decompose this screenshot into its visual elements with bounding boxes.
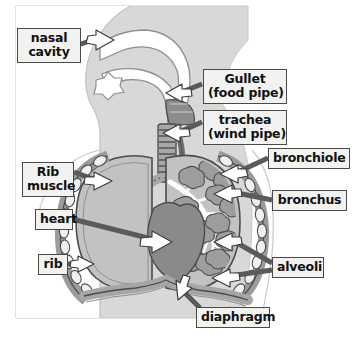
label-bronchus: bronchus bbox=[272, 190, 347, 211]
label-rib: rib bbox=[38, 254, 68, 275]
respiratory-system-figure: nasal cavity Gullet (food pipe) trachea … bbox=[0, 0, 357, 338]
label-alveoli-text: alveoli bbox=[277, 259, 322, 274]
label-rib-text: rib bbox=[44, 256, 63, 271]
label-rib-muscle: Rib muscle bbox=[22, 162, 74, 197]
label-gullet: Gullet (food pipe) bbox=[203, 69, 287, 104]
label-trachea: trachea (wind pipe) bbox=[203, 110, 287, 145]
label-bronchiole-text: bronchiole bbox=[273, 150, 346, 165]
label-trachea-line1: trachea bbox=[219, 112, 271, 127]
label-trachea-line2: (wind pipe) bbox=[208, 127, 282, 141]
label-gullet-line1: Gullet bbox=[225, 71, 266, 86]
label-rib-muscle-line1: Rib bbox=[37, 164, 59, 179]
label-rib-muscle-line2: muscle bbox=[27, 179, 69, 193]
label-diaphragm-text: diaphragm bbox=[201, 309, 275, 324]
label-bronchiole: bronchiole bbox=[268, 148, 350, 169]
label-nasal-cavity-line1: nasal bbox=[31, 30, 68, 45]
label-gullet-line2: (food pipe) bbox=[208, 86, 282, 100]
label-heart-text: heart bbox=[40, 211, 77, 226]
label-heart: heart bbox=[35, 209, 73, 230]
label-diaphragm: diaphragm bbox=[196, 307, 270, 328]
label-alveoli: alveoli bbox=[272, 257, 324, 278]
label-nasal-cavity-line2: cavity bbox=[22, 45, 76, 59]
label-bronchus-text: bronchus bbox=[278, 192, 342, 207]
label-nasal-cavity: nasal cavity bbox=[17, 28, 81, 63]
